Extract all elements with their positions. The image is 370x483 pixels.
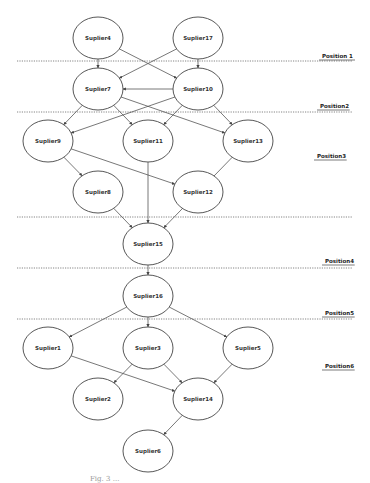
node-suplier13: Suplier13 <box>223 120 273 162</box>
node-suplier6: Suplier6 <box>123 430 173 472</box>
node-label: Suplier2 <box>85 396 111 403</box>
position-label: Position4 <box>325 258 354 264</box>
node-suplier17: Suplier17 <box>173 17 223 59</box>
node-suplier12: Suplier12 <box>173 171 223 213</box>
edge-Suplier3-to-Suplier2 <box>114 364 132 383</box>
edge-Suplier8-to-Suplier15 <box>114 208 133 227</box>
node-suplier1: Suplier1 <box>23 327 73 369</box>
node-label: Suplier10 <box>183 86 213 93</box>
node-suplier9: Suplier9 <box>23 120 73 162</box>
node-label: Suplier5 <box>235 345 261 352</box>
node-label: Suplier14 <box>183 396 213 403</box>
node-label: Suplier4 <box>85 35 111 42</box>
node-suplier4: Suplier4 <box>73 17 123 59</box>
node-label: Suplier15 <box>133 241 163 248</box>
node-label: Suplier11 <box>133 138 163 145</box>
node-label: Suplier17 <box>183 35 213 42</box>
node-suplier8: Suplier8 <box>73 171 123 213</box>
position-label: Position2 <box>320 103 349 109</box>
node-suplier10: Suplier10 <box>173 68 223 110</box>
node-suplier2: Suplier2 <box>73 378 123 420</box>
node-suplier7: Suplier7 <box>73 68 123 110</box>
node-suplier15: Suplier15 <box>123 223 173 265</box>
edge-Suplier16-to-Suplier5 <box>169 307 226 337</box>
node-label: Suplier12 <box>183 189 213 196</box>
nodes: Suplier4Suplier17Suplier7Suplier10Suplie… <box>23 17 273 472</box>
node-suplier5: Suplier5 <box>223 327 273 369</box>
node-label: Suplier16 <box>133 293 163 300</box>
node-suplier16: Suplier16 <box>123 275 173 317</box>
edge-Suplier14-to-Suplier6 <box>164 415 183 434</box>
position-label: Position 1 <box>322 53 353 59</box>
figure-caption: Fig. 3 ... <box>90 475 119 483</box>
position-label: Position3 <box>317 153 346 159</box>
node-label: Suplier9 <box>35 138 61 145</box>
edge-Suplier3-to-Suplier14 <box>164 364 182 383</box>
edge-Suplier10-to-Suplier13 <box>214 105 233 124</box>
node-label: Suplier13 <box>233 138 263 145</box>
node-label: Suplier6 <box>135 448 161 455</box>
edge-Suplier7-to-Suplier9 <box>64 105 83 124</box>
edge-Suplier10-to-Suplier11 <box>164 105 183 124</box>
node-label: Suplier8 <box>85 189 111 196</box>
position-label: Position5 <box>325 310 354 316</box>
node-suplier14: Suplier14 <box>173 378 223 420</box>
edge-Suplier16-to-Suplier1 <box>69 307 126 337</box>
node-label: Suplier3 <box>135 345 161 352</box>
node-suplier3: Suplier3 <box>123 327 173 369</box>
node-label: Suplier1 <box>35 345 61 352</box>
edge-Suplier5-to-Suplier14 <box>214 364 232 383</box>
node-suplier11: Suplier11 <box>123 120 173 162</box>
position-labels: Position 1Position2Position3Position4Pos… <box>314 53 355 370</box>
edge-Suplier9-to-Suplier8 <box>64 157 82 176</box>
node-label: Suplier7 <box>85 86 111 93</box>
position-label: Position6 <box>325 363 354 369</box>
